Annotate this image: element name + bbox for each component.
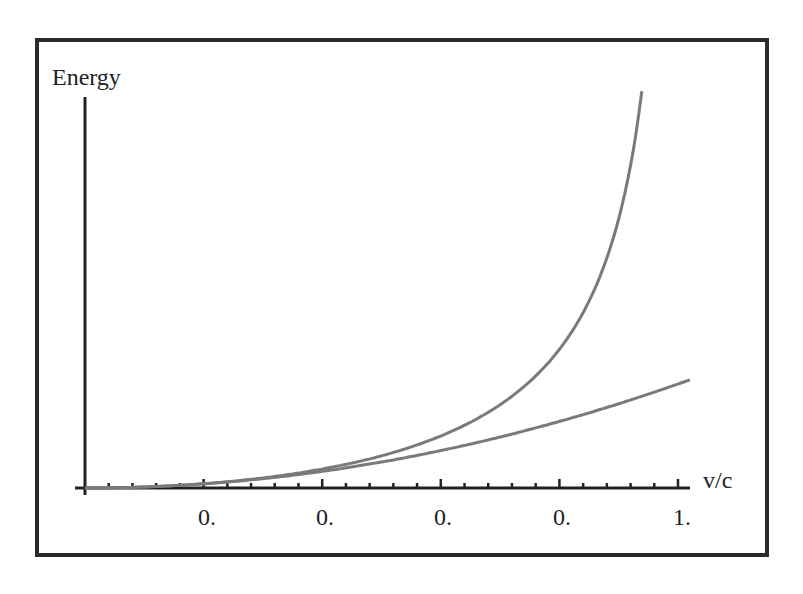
y-axis-label: Energy xyxy=(52,64,121,91)
x-tick-label: 0. xyxy=(553,504,571,531)
x-tick-label: 1. xyxy=(673,504,691,531)
x-tick-label: 0. xyxy=(198,504,216,531)
classical-energy-curve xyxy=(85,380,690,488)
x-axis-label: v/c xyxy=(703,467,732,494)
axes xyxy=(75,97,690,495)
x-tick-label: 0. xyxy=(434,504,452,531)
curves xyxy=(85,91,690,488)
x-tick-label: 0. xyxy=(316,504,334,531)
relativistic-energy-curve xyxy=(85,91,642,488)
